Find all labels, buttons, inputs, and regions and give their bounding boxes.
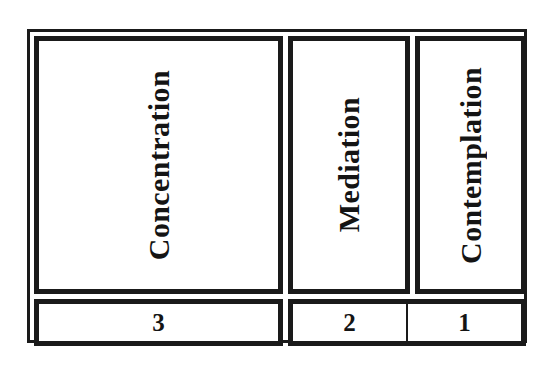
rank-label-concentration: 3	[152, 310, 165, 335]
rank-cell-mediation: 2	[293, 304, 408, 341]
diagram-outer-frame: Concentration Mediation Contemplation 3 …	[27, 29, 527, 343]
rank-cell-group: 2 1	[288, 299, 526, 346]
rank-cell-concentration: 3	[34, 299, 283, 346]
stage-cell-concentration: Concentration	[34, 36, 283, 294]
stage-cell-contemplation: Contemplation	[415, 36, 526, 294]
stage-label-contemplation: Contemplation	[456, 67, 486, 264]
rank-label-mediation: 2	[343, 310, 356, 335]
rank-cell-contemplation: 1	[408, 304, 521, 341]
rank-label-contemplation: 1	[458, 310, 471, 335]
stage-label-mediation: Mediation	[334, 97, 364, 232]
stage-cell-mediation: Mediation	[288, 36, 410, 294]
stage-label-concentration: Concentration	[144, 70, 174, 260]
diagram-grid: Concentration Mediation Contemplation 3 …	[34, 36, 520, 336]
